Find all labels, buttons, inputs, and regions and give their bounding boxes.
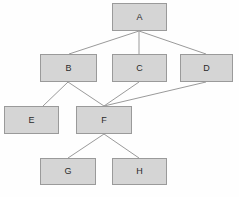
node-label: G (64, 167, 71, 176)
node-label: E (28, 116, 34, 125)
node-e[interactable]: E (4, 106, 59, 134)
edge-b-e (43, 82, 68, 106)
edge-b-f (68, 82, 104, 106)
node-label: B (65, 64, 71, 73)
edge-a-b (69, 31, 139, 54)
node-d[interactable]: D (180, 54, 233, 82)
graph-diagram: ABCDEFGH (0, 0, 239, 197)
node-label: F (101, 116, 107, 125)
node-h[interactable]: H (112, 158, 167, 185)
edge-a-d (139, 31, 206, 54)
node-f[interactable]: F (76, 106, 132, 134)
node-label: D (203, 64, 210, 73)
edge-f-g (68, 134, 104, 158)
edge-c-f (104, 82, 139, 106)
node-a[interactable]: A (112, 3, 167, 31)
node-label: C (136, 64, 143, 73)
node-label: A (136, 13, 142, 22)
node-label: H (136, 167, 143, 176)
edge-f-h (104, 134, 139, 158)
node-g[interactable]: G (40, 158, 96, 185)
node-c[interactable]: C (112, 54, 167, 82)
edge-d-f (104, 82, 206, 106)
node-b[interactable]: B (40, 54, 97, 82)
